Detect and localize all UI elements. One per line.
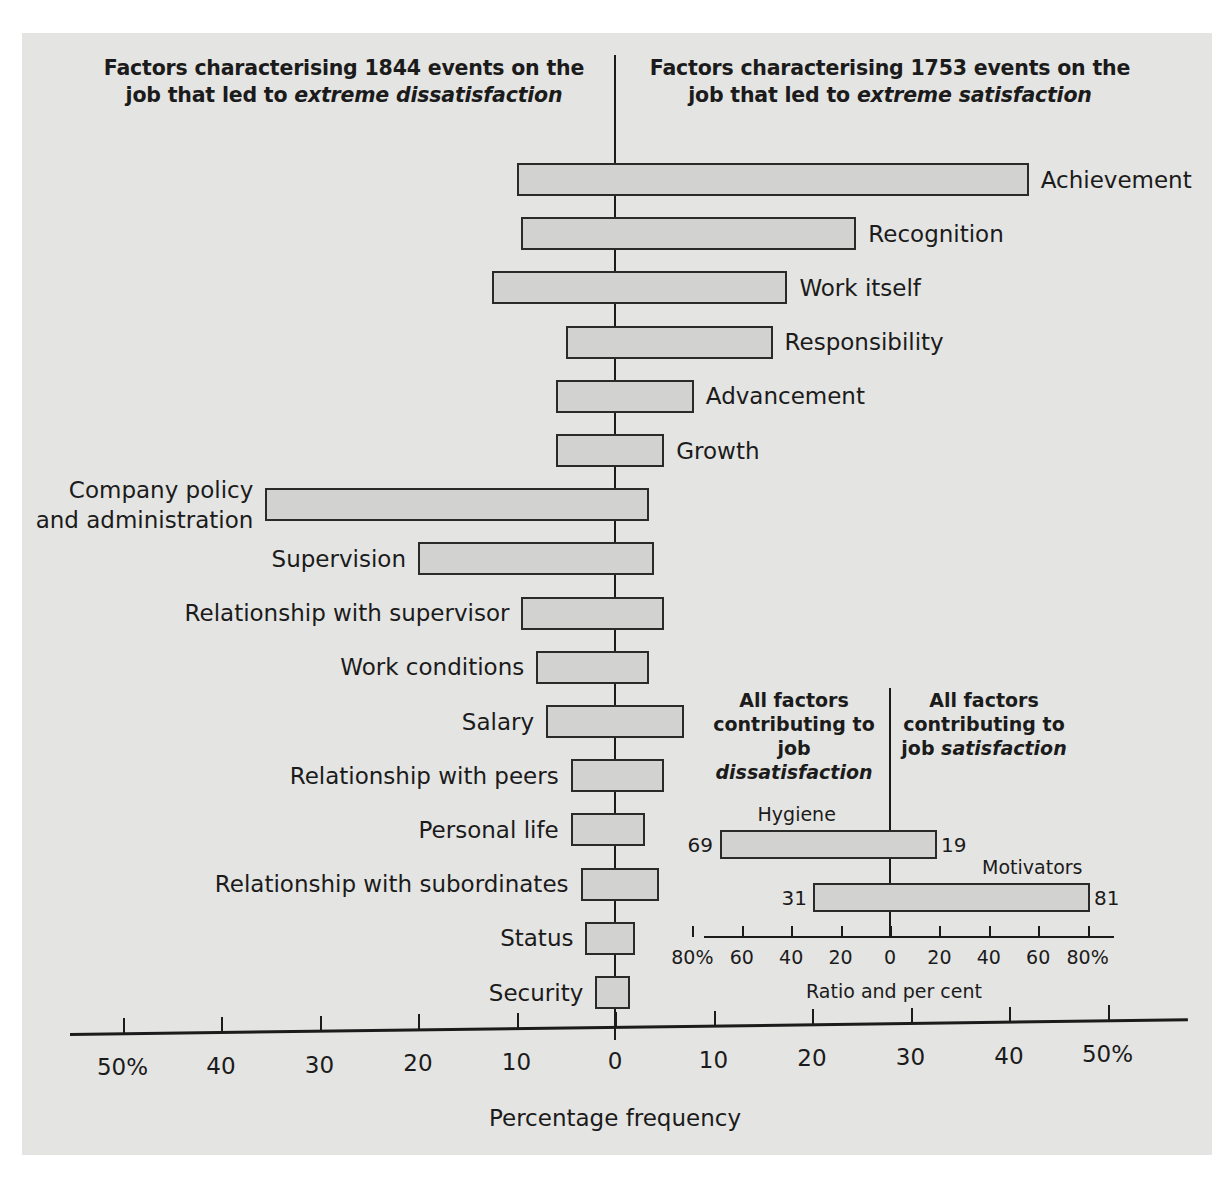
bar-label: Work conditions [340,653,524,681]
inset-x-axis-line [704,936,1114,938]
inset-left-title-line3-prefix: job [777,737,810,759]
inset-left-title: All factors contributing to job dissatis… [704,688,884,784]
inset-bar-hygiene [720,830,937,859]
inset-left-title-line3-emphasis: dissatisfaction [716,761,873,783]
inset-bar-value-left: 69 [688,833,713,857]
inset-x-axis-tick [742,926,744,937]
x-axis-tick [517,1013,519,1028]
x-axis-tick-label: 0 [575,1048,655,1074]
right-title-line2-prefix: job that led to [688,83,857,107]
inset-x-axis-tick [890,926,892,937]
inset-x-axis-tick [841,926,843,937]
bar-label: Growth [676,437,759,465]
x-axis-tick-label: 10 [674,1047,754,1073]
bar-security [595,976,629,1009]
bar-personal-life [571,813,645,846]
bar-responsibility [566,326,773,359]
bar-salary [546,705,684,738]
bar-label: Salary [462,708,534,736]
bar-label: Achievement [1041,166,1192,194]
bar-work-conditions [536,651,649,684]
chart-figure: Factors characterising 1844 events on th… [22,33,1212,1155]
bar-relationship-with-peers [571,759,665,792]
bar-label: Personal life [419,816,559,844]
x-axis-tick-label: 20 [772,1045,852,1071]
bar-relationship-with-subordinates [581,868,660,901]
right-title-line2-emphasis: extreme satisfaction [857,83,1092,107]
x-axis-tick-label: 10 [477,1049,557,1075]
inset-bar-value-right: 19 [941,833,966,857]
left-column-title: Factors characterising 1844 events on th… [94,55,594,109]
x-axis-tick-label: 40 [969,1043,1049,1069]
x-axis-tick [123,1018,125,1033]
inset-bar-name: Hygiene [758,803,836,825]
bar-label: Advancement [706,382,865,410]
left-title-line1: Factors characterising 1844 events on th… [104,56,584,80]
x-axis-tick-label: 30 [871,1044,951,1070]
x-axis-tick [320,1016,322,1031]
x-axis-tick [615,1012,617,1027]
x-axis-line [70,1018,1188,1036]
x-axis-tick-label: 50% [83,1054,163,1080]
x-axis-tick-label: 50% [1068,1041,1148,1067]
x-axis-tick-label: 30 [280,1052,360,1078]
inset-x-axis-tick [1038,926,1040,937]
bar-relationship-with-supervisor [521,597,664,630]
bar-label: Recognition [868,220,1003,248]
bar-label: Security [489,979,583,1007]
bar-status [585,922,634,955]
x-axis-tick [221,1017,223,1032]
bar-label: Company policyand administration [23,475,253,535]
inset-left-title-line2: contributing to [713,713,874,735]
inset-x-axis-tick [1088,926,1090,937]
inset-right-title-line2: contributing to [903,713,1064,735]
x-axis-tick [418,1014,420,1029]
inset-left-title-line1: All factors [739,689,849,711]
inset-right-title-line3-prefix: job [901,737,941,759]
bar-label: Relationship with supervisor [185,599,510,627]
bar-label: Relationship with subordinates [215,870,569,898]
inset-bar-name: Motivators [982,856,1082,878]
inset-x-axis-tick [939,926,941,937]
x-axis-tick-label: 40 [181,1053,261,1079]
inset-bar-value-left: 31 [781,886,806,910]
bar-label: Status [500,924,573,952]
inset-x-axis-tick-label: 80% [1053,946,1123,968]
bar-supervision [418,542,654,575]
inset-chart: All factors contributing to job dissatis… [694,688,1194,1018]
inset-bar-value-right: 81 [1094,886,1119,910]
x-axis-caption: Percentage frequency [415,1105,815,1131]
right-title-line1: Factors characterising 1753 events on th… [650,56,1130,80]
bar-recognition [521,217,856,250]
bar-achievement [517,163,1029,196]
bar-growth [556,434,664,467]
inset-x-axis-tick [692,926,694,937]
right-column-title: Factors characterising 1753 events on th… [640,55,1140,109]
bar-label: Supervision [272,545,406,573]
left-title-line2-emphasis: extreme dissatisfaction [294,83,562,107]
bar-advancement [556,380,694,413]
bar-label: Work itself [799,274,921,302]
inset-right-title-line3-emphasis: satisfaction [941,737,1067,759]
left-title-line2-prefix: job that led to [126,83,295,107]
bar-work-itself [492,271,788,304]
bar-label: Responsibility [785,328,944,356]
bar-company-policy-and-administration [265,488,649,521]
inset-x-axis-tick [791,926,793,937]
inset-x-axis-tick [989,926,991,937]
inset-right-title-line1: All factors [929,689,1039,711]
inset-x-axis-caption: Ratio and per cent [759,980,1029,1002]
inset-bar-motivators [813,883,1090,912]
inset-right-title: All factors contributing to job satisfac… [894,688,1074,760]
bar-label: Relationship with peers [290,762,559,790]
x-axis-tick-label: 20 [378,1050,458,1076]
